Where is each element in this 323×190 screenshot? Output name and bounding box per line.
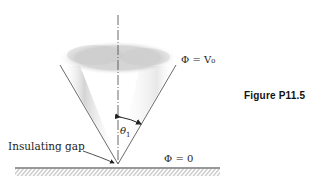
- insulating-gap-label: Insulating gap: [8, 140, 85, 152]
- ground-potential-label: Φ = 0: [164, 153, 193, 164]
- gap-pointer-arrow: [83, 151, 114, 163]
- angle-subscript: 1: [126, 131, 130, 139]
- cone-figure: Φ = V₀ θ1 Insulating gap Φ = 0 Figure P1…: [0, 0, 323, 190]
- angle-label: θ1: [120, 125, 131, 139]
- top-potential-label: Φ = V₀: [181, 54, 215, 65]
- figure-caption: Figure P11.5: [244, 90, 305, 101]
- ground-hatching: [15, 169, 220, 176]
